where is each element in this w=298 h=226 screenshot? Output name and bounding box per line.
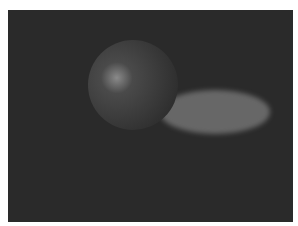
light-spot bbox=[160, 90, 270, 134]
rendered-scene bbox=[8, 10, 293, 222]
scene-canvas bbox=[8, 10, 293, 222]
sphere bbox=[88, 40, 178, 130]
